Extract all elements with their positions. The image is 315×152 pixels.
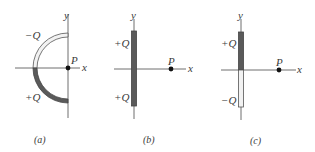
- charge-label-upper: +Q: [114, 37, 129, 49]
- negative-rod-half: [239, 70, 244, 107]
- y-axis-label: y: [237, 9, 243, 21]
- panel-b: y x P +Q +Q (b): [114, 9, 193, 146]
- point-label: P: [70, 54, 78, 66]
- charge-distribution-figure: y x P −Q +Q (a) y x P +Q +Q (b) y x P +Q…: [0, 0, 315, 152]
- point-p: [277, 68, 282, 73]
- x-axis-label: x: [296, 63, 302, 75]
- charged-rod: [132, 31, 137, 106]
- point-p: [169, 67, 174, 72]
- panel-c: y x P +Q −Q (c): [221, 9, 302, 147]
- charge-label-lower: −Q: [221, 94, 236, 106]
- panel-caption: (a): [34, 134, 46, 146]
- charge-label-lower: +Q: [114, 91, 129, 103]
- x-axis-label: x: [187, 62, 193, 74]
- panel-caption: (c): [250, 135, 262, 147]
- charge-label-upper: +Q: [221, 37, 236, 49]
- y-axis-label: y: [130, 9, 136, 21]
- point-label: P: [275, 56, 283, 68]
- positive-rod-half: [239, 32, 244, 70]
- charge-label-upper: −Q: [25, 29, 40, 41]
- point-label: P: [167, 55, 175, 67]
- y-axis-label: y: [63, 9, 69, 21]
- panel-a: y x P −Q +Q (a): [15, 9, 87, 146]
- charge-label-lower: +Q: [25, 91, 40, 103]
- panel-caption: (b): [143, 134, 155, 146]
- x-axis-label: x: [81, 61, 87, 73]
- point-p: [66, 66, 71, 71]
